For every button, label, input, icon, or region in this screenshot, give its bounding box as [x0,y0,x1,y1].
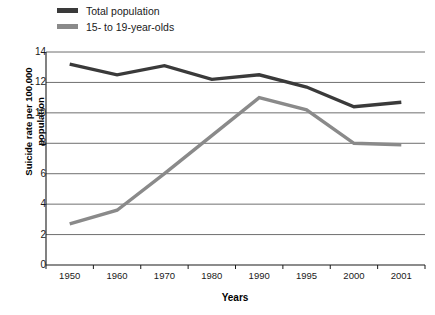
series-line-total-population [70,64,402,107]
series-lines [70,64,402,224]
series-line-teens [70,98,402,224]
plot-area [0,0,435,315]
x-axis-title: Years [45,292,425,303]
x-axis-tick-label: 1980 [188,270,235,281]
x-axis-tick-label: 1970 [141,270,188,281]
x-axis-tick-label: 2000 [330,270,377,281]
line-chart: Total population 15- to 19-year-olds Sui… [0,0,435,315]
x-axis-tick-label: 1960 [93,270,140,281]
x-axis-tick-label: 1995 [283,270,330,281]
x-axis-tick-label: 1990 [236,270,283,281]
x-axis-tick-label: 2001 [378,270,425,281]
axis-lines [46,52,425,265]
x-axis-tick-label: 1950 [46,270,93,281]
x-axis-ticks [46,265,425,269]
